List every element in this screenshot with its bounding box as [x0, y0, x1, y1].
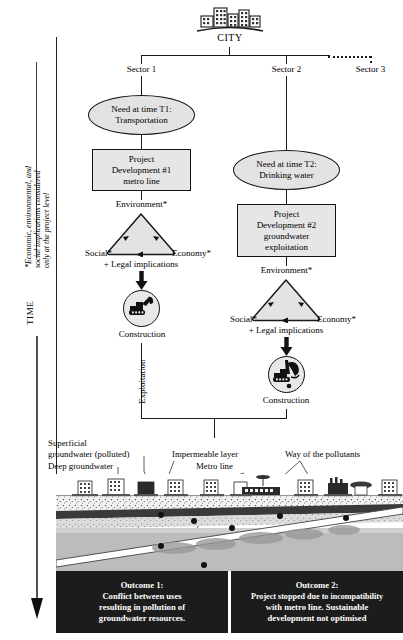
- need1-to-project1-line: [141, 135, 142, 149]
- branch1-sustainability-triangle: [104, 211, 178, 257]
- outcome-1-line3: groundwater resources.: [99, 613, 185, 624]
- time-axis-label: TIME: [25, 301, 35, 325]
- exploitation-label: Exploitation: [137, 360, 147, 405]
- need-t1-line1: Need at time T1:: [111, 104, 172, 115]
- project2-line2: Development #2: [257, 220, 317, 231]
- project1-line3: metro line: [112, 176, 172, 187]
- sector-bus: [141, 55, 330, 56]
- branch2-environment-label: Environment*: [249, 265, 324, 276]
- need-t2-line2: Drinking water: [256, 170, 317, 181]
- branch2-economy-label: Economy*: [317, 314, 372, 325]
- callout-superficial-line2: groundwater (polluted): [48, 449, 129, 460]
- sector-3-label: Sector 3: [339, 64, 402, 75]
- branch1-economy-label: Economy*: [172, 248, 222, 259]
- branch2-construction-icon: [268, 356, 305, 393]
- branch2-construction-label: Construction: [250, 395, 322, 406]
- merge-to-section-line: [214, 418, 215, 438]
- project1-line1: Project: [112, 154, 172, 165]
- sector1-drop: [141, 55, 142, 64]
- branch2-legal-footnote: + Legal implications: [226, 325, 346, 336]
- sector-2-label: Sector 2: [255, 64, 318, 75]
- callout-deep-groundwater: Deep groundwater: [48, 461, 113, 472]
- branch1-social-label: Social*: [70, 248, 112, 259]
- need2-to-project2-line: [286, 190, 287, 204]
- project2-line3: groundwater: [257, 231, 317, 242]
- sector3-dotted-stem: [370, 56, 372, 63]
- sector3-dotted-connector: [328, 56, 371, 58]
- outcome-2-line1: Project stopped due to incompatibility: [251, 591, 383, 602]
- branch1-construction-label: Construction: [106, 329, 178, 340]
- need-t1-ellipse: Need at time T1: Transportation: [88, 95, 195, 135]
- branch1-construction-icon: [123, 290, 160, 327]
- need-t2-ellipse: Need at time T2: Drinking water: [233, 150, 340, 190]
- project2-line1: Project: [257, 209, 317, 220]
- outcome-1-line2: resulting in pollution of: [99, 602, 185, 613]
- axis-footnote-line3: only at the project level: [42, 193, 52, 268]
- callout-metro-line: Metro line: [196, 461, 233, 472]
- need-t1-line2: Transportation: [111, 115, 172, 126]
- diagram-canvas: CITY Sector 1 Sector 2 Sector 3 Need at …: [0, 0, 403, 640]
- outcome-1-heading: Outcome 1:: [121, 580, 164, 591]
- sector2-drop: [286, 55, 287, 64]
- branch1-environment-label: Environment*: [104, 199, 179, 210]
- sector-1-label: Sector 1: [110, 64, 173, 75]
- sector2-to-need-line: [286, 76, 287, 150]
- outcome-2-line3: development not optimised: [268, 613, 367, 624]
- project-development-2-box: Project Development #2 groundwater explo…: [237, 204, 336, 257]
- city-label: CITY: [206, 33, 254, 44]
- time-axis-arrow: [30, 336, 44, 620]
- city-buildings-icon: [196, 4, 264, 34]
- outcome-2-line2: with metro line. Sustainable: [266, 602, 369, 613]
- callout-superficial-line1: Superficial: [48, 438, 87, 449]
- outcome-2-box: Outcome 2: Project stopped due to incomp…: [231, 571, 403, 633]
- branch2-social-label: Social*: [215, 314, 257, 325]
- branch1-down-arrow: [135, 271, 148, 290]
- project2-line4: exploitation: [257, 242, 317, 253]
- outcome-1-box: Outcome 1: Conflict between uses resulti…: [56, 571, 228, 633]
- outcome-2-heading: Outcome 2:: [296, 580, 339, 591]
- project-development-1-box: Project Development #1 metro line: [92, 149, 191, 191]
- callout-impermeable-layer: Impermeable layer: [172, 449, 238, 460]
- callout-way-of-pollutants: Way of the pollutants: [285, 449, 360, 460]
- branch2-down-arrow: [280, 337, 293, 356]
- hydrogeological-cross-section: [56, 474, 403, 571]
- sector1-to-need-line: [141, 76, 142, 95]
- branch2-sustainability-triangle: [249, 277, 323, 323]
- branch1-legal-footnote: + Legal implications: [81, 259, 201, 270]
- outcome-1-line1: Conflict between uses: [102, 591, 181, 602]
- need-t2-line1: Need at time T2:: [256, 159, 317, 170]
- project1-line2: Development #1: [112, 165, 172, 176]
